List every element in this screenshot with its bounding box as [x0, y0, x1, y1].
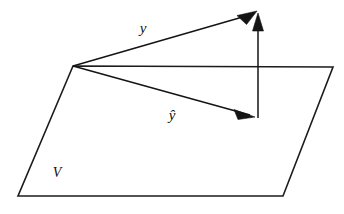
vector-residual-arrowhead-icon: [253, 13, 264, 31]
label-subspace-v: V: [53, 165, 63, 180]
projection-diagram: y ŷ V: [0, 0, 344, 214]
label-vector-y-hat: ŷ: [167, 107, 176, 123]
vector-y-arrowhead-icon: [237, 11, 257, 25]
vector-y-hat-line: [73, 66, 250, 115]
diagram-canvas: y ŷ V: [0, 0, 344, 214]
label-vector-y: y: [138, 20, 147, 36]
vector-y-line: [73, 14, 253, 66]
subspace-plane: [18, 66, 333, 196]
vector-y-hat-arrowhead-icon: [234, 110, 255, 120]
